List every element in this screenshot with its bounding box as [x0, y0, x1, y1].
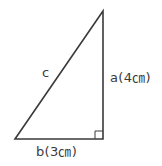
side-b-label: b(3㎝): [36, 145, 77, 158]
right-angle-marker: [95, 131, 103, 139]
triangle-outline: [15, 11, 103, 139]
side-a-label: a(4㎝): [110, 71, 151, 84]
hypotenuse-label: c: [42, 66, 49, 79]
